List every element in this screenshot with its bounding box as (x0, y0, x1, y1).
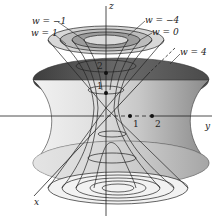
label-w-neg1: w = −1 (32, 16, 66, 26)
z-tick-2: 2 (97, 61, 103, 71)
z-point-2 (104, 71, 108, 75)
label-w-neg4: w = −4 (145, 15, 180, 25)
z-point-1 (104, 91, 108, 95)
y-point-1 (128, 114, 132, 118)
x-axis-label: x (34, 197, 39, 207)
label-w-4: w = 4 (180, 47, 207, 57)
y-point-2 (150, 114, 154, 118)
z-tick-1: 1 (97, 81, 103, 91)
label-w-0: w = 0 (152, 27, 179, 37)
label-w-1: w = 1 (31, 28, 58, 38)
z-axis-label: z (108, 1, 114, 11)
level-surface-diagram: z y x 2 1 1 2 w = −1 w = 1 w = −4 w = 0 … (0, 0, 214, 216)
y-tick-1: 1 (133, 119, 139, 129)
ring-bottom-1 (48, 172, 188, 204)
y-tick-2: 2 (155, 119, 161, 129)
y-axis-label: y (204, 121, 211, 131)
